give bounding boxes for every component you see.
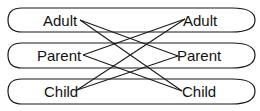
edge-parent-adult [83, 19, 185, 55]
right-label-parent: Parent [177, 47, 222, 64]
relation-diagram: Adult Parent Child Adult Parent Child [0, 0, 260, 111]
edge-parent-child [83, 55, 182, 91]
right-label-child: Child [182, 83, 216, 100]
left-label-parent: Parent [37, 47, 82, 64]
left-label-adult: Adult [43, 12, 78, 29]
edge-child-parent [77, 56, 178, 90]
left-label-child: Child [44, 83, 78, 100]
right-label-adult: Adult [183, 12, 218, 29]
